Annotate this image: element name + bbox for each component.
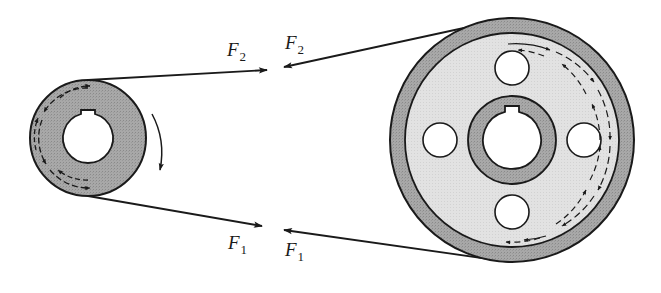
lightening-hole-right xyxy=(567,123,601,157)
force-label-f1-right: F1 xyxy=(285,240,304,263)
lightening-hole-bottom xyxy=(495,195,529,229)
lightening-hole-top xyxy=(495,51,529,85)
lightening-hole-left xyxy=(423,123,457,157)
force-label-f2-left: F2 xyxy=(227,40,246,63)
small-pulley xyxy=(30,80,162,196)
belt-drive-diagram xyxy=(0,0,661,293)
large-pulley xyxy=(390,18,634,262)
slack-side-left-arrow xyxy=(88,196,262,226)
tight-side-left-arrow xyxy=(88,70,267,80)
force-label-f1-left: F1 xyxy=(228,233,247,256)
force-label-f2-right: F2 xyxy=(285,33,304,56)
rotation-clockwise-icon xyxy=(152,114,162,170)
